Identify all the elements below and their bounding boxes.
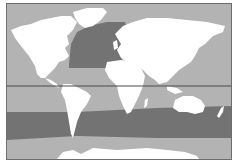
world-map	[6, 3, 232, 160]
map-graphic	[7, 4, 231, 159]
